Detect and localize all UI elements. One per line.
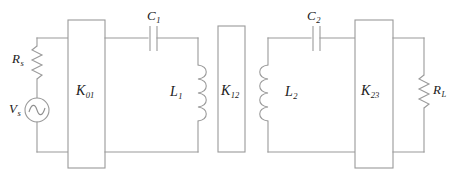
label-inverter-k23: K23: [361, 84, 379, 98]
label-voltage-source: Vs: [9, 102, 20, 115]
label-source-resistor: Rs: [12, 52, 23, 65]
label-capacitor-c1: C1: [147, 9, 160, 22]
label-inductor-l2: L2: [285, 85, 297, 99]
inductor-l1-symbol: [198, 65, 206, 121]
resistor-rs-symbol: [32, 46, 42, 79]
label-inverter-k01: K01: [76, 84, 94, 98]
label-capacitor-c2: C2: [307, 9, 320, 22]
circuit-diagram: Rs Vs K01 C1 L1 K12 L2 C2 K23 RL: [0, 0, 455, 169]
inductor-l2-symbol: [260, 65, 268, 121]
label-inductor-l1: L1: [170, 85, 182, 99]
resistor-rl-symbol: [419, 75, 429, 108]
label-load-resistor: RL: [433, 83, 446, 96]
label-inverter-k12: K12: [221, 84, 239, 98]
